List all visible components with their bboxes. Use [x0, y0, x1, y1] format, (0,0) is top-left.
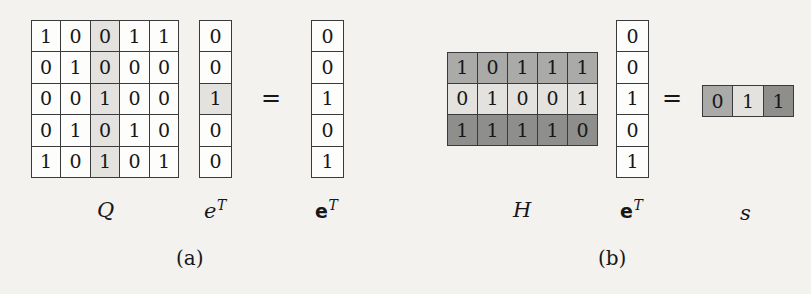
- vector-e-bold-transpose-b: 00101: [616, 20, 649, 178]
- vector-e-transpose-a-cell-r0-c0: 0: [200, 21, 231, 51]
- caption-panel-a: (a): [176, 248, 204, 268]
- matrix-q: 1001101000001000101010101: [31, 20, 179, 178]
- matrix-q-cell-r4-c3: 0: [120, 147, 148, 177]
- matrix-h-cell-r2-c3: 1: [538, 115, 567, 145]
- matrix-q-cell-r0-c1: 0: [61, 21, 89, 51]
- matrix-q-cell-r3-c0: 0: [32, 115, 60, 145]
- matrix-q-cell-r1-c0: 0: [32, 52, 60, 82]
- matrix-h-cell-r0-c0: 1: [448, 53, 477, 83]
- matrix-q-cell-r1-c2: 0: [91, 52, 119, 82]
- vector-s-cell-r0-c0: 0: [703, 86, 732, 116]
- matrix-h-cell-r0-c3: 1: [538, 53, 567, 83]
- label-base: H: [513, 198, 531, 222]
- matrix-h: 101110100111110: [447, 52, 598, 146]
- label-base: s: [740, 201, 751, 225]
- vector-e-bold-transpose-b-cell-r3-c0: 0: [617, 115, 648, 145]
- label-base: e: [620, 200, 633, 222]
- matrix-q-cell-r3-c2: 0: [91, 115, 119, 145]
- matrix-q-cell-r4-c0: 1: [32, 147, 60, 177]
- label-superscript: T: [217, 197, 226, 213]
- vector-e-transpose-a-cell-r3-c0: 0: [200, 115, 231, 145]
- matrix-q-cell-r0-c2: 0: [91, 21, 119, 51]
- vector-e-bold-transpose-a-cell-r1-c0: 0: [312, 52, 343, 82]
- matrix-h-cell-r2-c1: 1: [478, 115, 507, 145]
- matrix-q-cell-r3-c1: 1: [61, 115, 89, 145]
- label-superscript: T: [633, 197, 642, 213]
- label-e-transpose-a: eT: [204, 201, 226, 222]
- caption-panel-b: (b): [598, 248, 626, 268]
- label-e-bold-transpose-b: eT: [620, 201, 643, 222]
- vector-e-transpose-a-cell-r2-c0: 1: [200, 84, 231, 114]
- vector-s-cell-r0-c1: 1: [733, 86, 762, 116]
- vector-e-bold-transpose-b-cell-r2-c0: 1: [617, 84, 648, 114]
- matrix-q-cell-r2-c1: 0: [61, 84, 89, 114]
- vector-e-bold-transpose-a-cell-r3-c0: 0: [312, 115, 343, 145]
- equals-sign-b: =: [662, 86, 682, 110]
- matrix-q-cell-r2-c3: 0: [120, 84, 148, 114]
- matrix-q-cell-r4-c4: 1: [150, 147, 178, 177]
- label-s: s: [740, 203, 751, 224]
- matrix-q-cell-r1-c3: 0: [120, 52, 148, 82]
- vector-e-bold-transpose-b-cell-r0-c0: 0: [617, 21, 648, 51]
- vector-e-bold-transpose-b-cell-r1-c0: 0: [617, 52, 648, 82]
- vector-s-cell-r0-c2: 1: [764, 86, 793, 116]
- matrix-h-cell-r1-c3: 0: [538, 84, 567, 114]
- matrix-q-cell-r3-c3: 1: [120, 115, 148, 145]
- label-e-bold-transpose-a: eT: [315, 201, 338, 222]
- vector-e-bold-transpose-a-cell-r2-c0: 1: [312, 84, 343, 114]
- matrix-q-cell-r2-c0: 0: [32, 84, 60, 114]
- vector-e-transpose-a-cell-r1-c0: 0: [200, 52, 231, 82]
- matrix-h-cell-r1-c4: 1: [568, 84, 597, 114]
- matrix-q-cell-r0-c3: 1: [120, 21, 148, 51]
- figure-canvas: 1001101000001000101010101 00100 = 00101 …: [0, 0, 811, 294]
- label-h: H: [513, 200, 531, 221]
- matrix-h-cell-r0-c1: 0: [478, 53, 507, 83]
- matrix-h-cell-r2-c2: 1: [508, 115, 537, 145]
- vector-e-bold-transpose-b-cell-r4-c0: 1: [617, 147, 648, 177]
- label-base: e: [315, 200, 328, 222]
- vector-e-bold-transpose-a-cell-r4-c0: 1: [312, 147, 343, 177]
- matrix-q-cell-r4-c1: 0: [61, 147, 89, 177]
- vector-e-transpose-a: 00100: [199, 20, 232, 178]
- vector-s: 011: [702, 85, 794, 117]
- equals-sign-a: =: [261, 86, 281, 110]
- matrix-q-cell-r2-c2: 1: [91, 84, 119, 114]
- label-q: Q: [97, 200, 114, 221]
- vector-e-bold-transpose-a: 00101: [311, 20, 344, 178]
- matrix-h-cell-r2-c0: 1: [448, 115, 477, 145]
- matrix-q-cell-r3-c4: 0: [150, 115, 178, 145]
- matrix-q-cell-r1-c4: 0: [150, 52, 178, 82]
- matrix-q-cell-r0-c0: 1: [32, 21, 60, 51]
- vector-e-bold-transpose-a-cell-r0-c0: 0: [312, 21, 343, 51]
- matrix-h-cell-r1-c2: 0: [508, 84, 537, 114]
- label-superscript: T: [328, 197, 337, 213]
- label-base: Q: [97, 198, 114, 222]
- matrix-h-cell-r0-c4: 1: [568, 53, 597, 83]
- matrix-q-cell-r4-c2: 1: [91, 147, 119, 177]
- matrix-h-cell-r1-c1: 1: [478, 84, 507, 114]
- matrix-h-cell-r1-c0: 0: [448, 84, 477, 114]
- matrix-h-cell-r0-c2: 1: [508, 53, 537, 83]
- vector-e-transpose-a-cell-r4-c0: 0: [200, 147, 231, 177]
- matrix-q-cell-r0-c4: 1: [150, 21, 178, 51]
- matrix-q-cell-r1-c1: 1: [61, 52, 89, 82]
- matrix-h-cell-r2-c4: 0: [568, 115, 597, 145]
- label-base: e: [204, 199, 216, 223]
- matrix-q-cell-r2-c4: 0: [150, 84, 178, 114]
